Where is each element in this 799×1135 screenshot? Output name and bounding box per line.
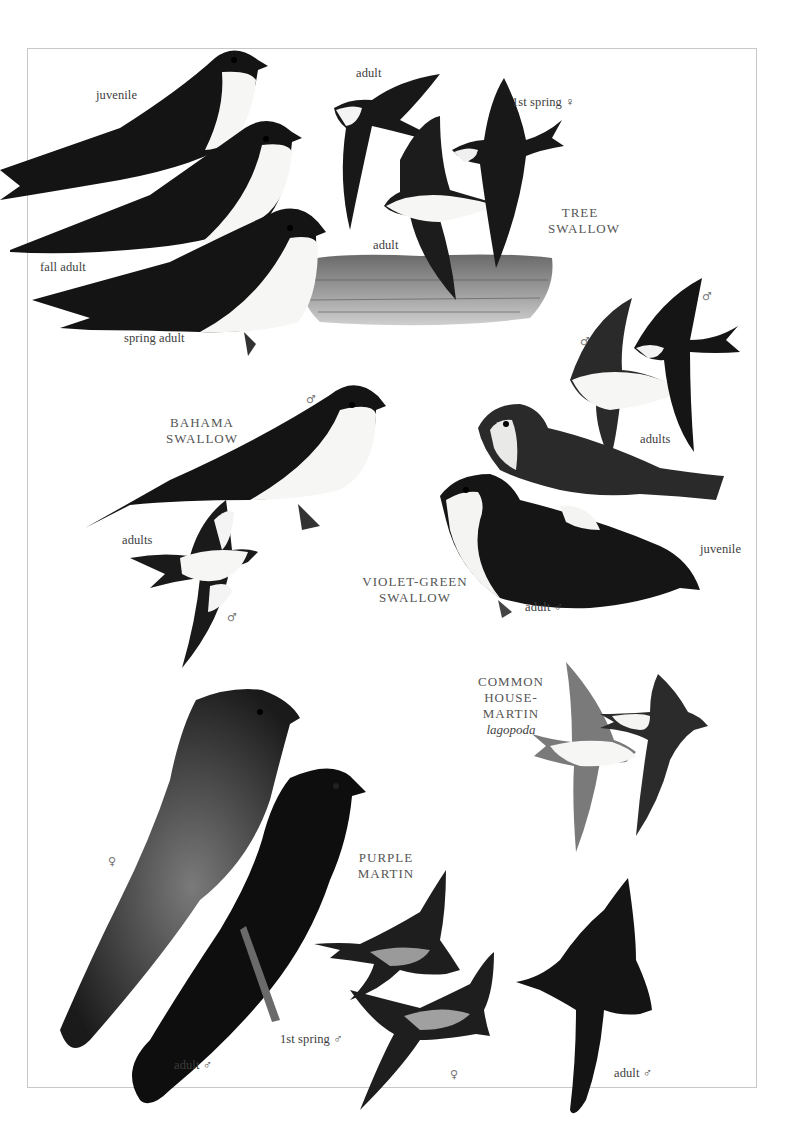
label-tree-swallow-adult-top: adult <box>356 66 382 81</box>
plate-illustrations <box>0 0 799 1135</box>
label-violet-green-adults: adults <box>640 432 670 447</box>
species-name-purple-martin: PURPLE MARTIN <box>356 850 416 882</box>
bahama-swallow-flying-illustration <box>130 500 258 668</box>
label-purple-martin-adult-male-perched: adult ♂ <box>174 1058 212 1073</box>
species-name-line2: SWALLOW <box>379 590 451 605</box>
species-name-line1: COMMON <box>478 674 544 689</box>
species-name-line2: HOUSE-MARTIN <box>483 690 540 721</box>
species-name-line2: SWALLOW <box>548 221 620 236</box>
subspecies-name: lagopoda <box>456 722 566 738</box>
species-name-line1: BAHAMA <box>170 415 234 430</box>
species-name-line2: SWALLOW <box>166 431 238 446</box>
bahama-swallow-perched-illustration <box>85 385 386 530</box>
label-tree-swallow-adult-lower: adult <box>373 238 399 253</box>
male-symbol: ♂ <box>227 611 237 624</box>
male-symbol: ♂ <box>702 290 712 303</box>
female-symbol: ♀ <box>450 1068 458 1081</box>
species-name-violet-green-swallow: VIOLET-GREEN SWALLOW <box>360 574 470 606</box>
purple-martin-1st-spring-male-flying-illustration <box>314 870 460 1000</box>
male-symbol: ♂ <box>306 393 316 406</box>
violet-green-swallow-adult-male-illustration <box>440 474 700 618</box>
label-purple-martin-adult-male-flying: adult ♂ <box>614 1066 652 1081</box>
label-bahama-swallow-adults: adults <box>122 533 152 548</box>
species-name-common-house-martin: COMMON HOUSE-MARTIN lagopoda <box>456 674 566 738</box>
label-tree-swallow-fall-adult: fall adult <box>40 260 86 275</box>
male-symbol: ♂ <box>580 335 590 348</box>
label-purple-martin-1st-spring-male: 1st spring ♂ <box>280 1032 343 1047</box>
field-guide-plate: juvenile fall adult spring adult adult a… <box>0 0 799 1135</box>
species-name-bahama-swallow: BAHAMA SWALLOW <box>162 415 242 447</box>
label-tree-swallow-1st-spring-female: 1st spring ♀ <box>512 95 575 110</box>
label-tree-swallow-juvenile: juvenile <box>96 88 137 103</box>
label-violet-green-juvenile: juvenile <box>700 542 741 557</box>
marsh-landscape <box>299 254 552 325</box>
label-tree-swallow-spring-adult: spring adult <box>124 331 185 346</box>
species-name-line1: VIOLET-GREEN <box>362 574 467 589</box>
label-violet-green-adult-male: adult ♂ <box>525 600 563 615</box>
species-name-tree-swallow: TREE SWALLOW <box>548 205 612 237</box>
species-name-line1: PURPLE <box>359 850 413 865</box>
female-symbol: ♀ <box>108 855 116 868</box>
species-name-line2: MARTIN <box>358 866 415 881</box>
species-name-line1: TREE <box>562 205 599 220</box>
